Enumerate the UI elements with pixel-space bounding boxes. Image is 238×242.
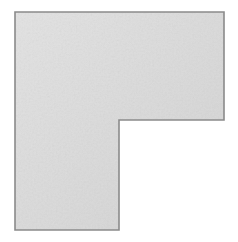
- l-shape-svg: [0, 0, 238, 242]
- canvas-root: [0, 0, 238, 242]
